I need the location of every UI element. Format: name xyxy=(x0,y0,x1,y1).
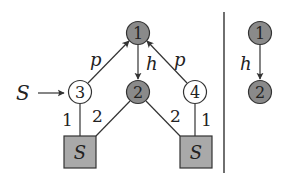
factor-S-left: S xyxy=(64,136,96,168)
edge-label-2-right: 2 xyxy=(170,106,181,126)
svg-text:S: S xyxy=(74,142,86,163)
edge-label-2-left: 2 xyxy=(92,106,103,126)
svg-text:2: 2 xyxy=(133,83,143,102)
svg-text:1: 1 xyxy=(133,24,143,43)
node-1: 1 xyxy=(127,22,150,45)
node-2: 2 xyxy=(127,81,150,104)
edge-label-h-right: h xyxy=(240,53,252,74)
right-graph: h 1 2 xyxy=(240,22,272,104)
edge-label-p-left: p xyxy=(90,49,102,70)
start-label: S xyxy=(16,81,30,105)
svg-text:2: 2 xyxy=(255,83,265,102)
edge-label-h: h xyxy=(146,53,158,74)
node-4: 4 xyxy=(184,81,207,104)
edge-label-1-right: 1 xyxy=(201,110,212,130)
right-node-1: 1 xyxy=(249,22,272,45)
node-3: 3 xyxy=(69,81,92,104)
svg-text:3: 3 xyxy=(75,83,85,102)
edge-label-1-left: 1 xyxy=(62,110,73,130)
factor-S-right: S xyxy=(180,136,212,168)
diagram-canvas: S p h p 1 2 2 1 1 2 3 4 S xyxy=(0,0,294,185)
right-node-2: 2 xyxy=(249,81,272,104)
svg-text:S: S xyxy=(190,142,202,163)
svg-text:1: 1 xyxy=(255,24,265,43)
svg-text:4: 4 xyxy=(190,83,200,102)
edge-label-p-right: p xyxy=(174,49,186,70)
left-graph: S p h p 1 2 2 1 1 2 3 4 S xyxy=(16,22,212,169)
